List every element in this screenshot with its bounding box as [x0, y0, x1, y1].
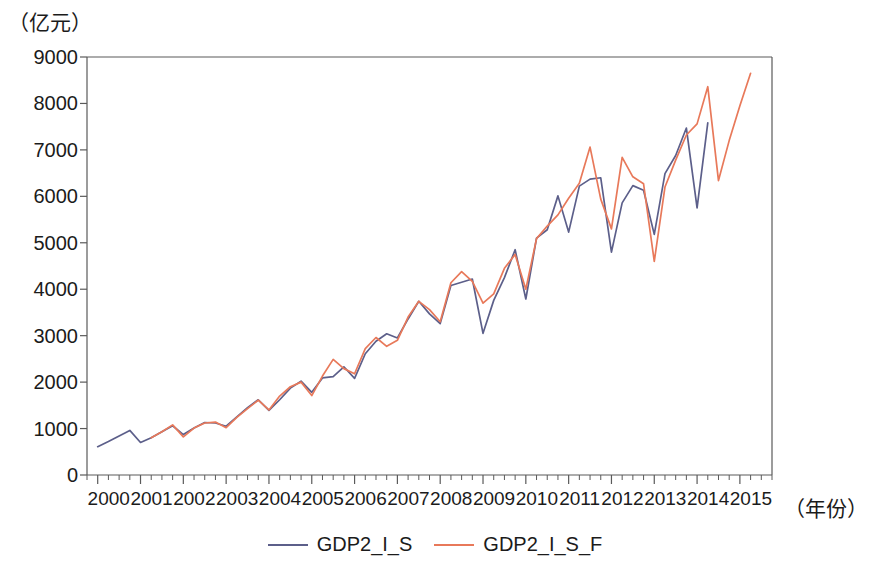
- y-axis-tick-label: 6000: [34, 185, 79, 208]
- x-axis-tick-label: 2009: [473, 488, 515, 510]
- x-axis-tick-label: 2007: [387, 488, 429, 510]
- legend-label: GDP2_I_S: [317, 533, 413, 556]
- x-axis-tick-label: 2003: [216, 488, 258, 510]
- y-axis-tick-label: 8000: [34, 92, 79, 115]
- y-axis-tick-label: 9000: [34, 46, 79, 69]
- x-axis-tick-label: 2002: [173, 488, 215, 510]
- x-axis-tick-label: 2013: [644, 488, 686, 510]
- series-line-0: [98, 123, 708, 447]
- x-axis-tick-label: 2011: [559, 488, 600, 510]
- x-axis-tick-label: 2005: [302, 488, 344, 510]
- y-axis-tick-label: 5000: [34, 231, 79, 254]
- series-line-1: [151, 73, 750, 438]
- legend-label: GDP2_I_S_F: [483, 533, 602, 556]
- legend-item[interactable]: GDP2_I_S: [268, 533, 413, 556]
- legend-color-swatch: [434, 544, 474, 546]
- y-axis-tick-labels: 0100020003000400050006000700080009000: [0, 0, 78, 563]
- x-axis-tick-label: 2010: [516, 488, 558, 510]
- chart-container: （亿元） 01000200030004000500060007000800090…: [0, 0, 870, 563]
- y-axis-tick-label: 3000: [34, 324, 79, 347]
- x-axis-tick-label: 2012: [601, 488, 643, 510]
- x-axis-tick-label: 2000: [88, 488, 130, 510]
- y-axis-tick-label: 4000: [34, 278, 79, 301]
- y-axis-tick-label: 1000: [34, 417, 79, 440]
- legend-item[interactable]: GDP2_I_S_F: [434, 533, 602, 556]
- x-axis-tick-label: 2004: [259, 488, 301, 510]
- x-axis-tick-label: 2006: [344, 488, 386, 510]
- x-axis-title: （年份）: [784, 492, 868, 522]
- chart-legend: GDP2_I_SGDP2_I_S_F: [0, 533, 870, 556]
- y-axis-tick-label: 0: [67, 464, 78, 487]
- x-axis-tick-label: 2015: [730, 488, 772, 510]
- x-axis-tick-label: 2008: [430, 488, 472, 510]
- x-axis-tick-label: 2001: [130, 488, 172, 510]
- y-axis-tick-label: 7000: [34, 138, 79, 161]
- plot-area: [0, 0, 870, 563]
- x-axis-tick-label: 2014: [687, 488, 729, 510]
- y-axis-tick-label: 2000: [34, 371, 79, 394]
- legend-color-swatch: [268, 544, 308, 546]
